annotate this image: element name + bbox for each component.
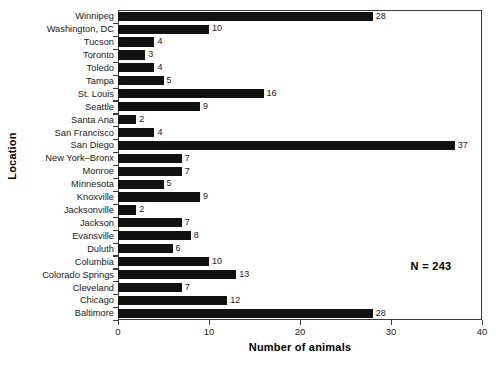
- bar-row: 37: [118, 139, 482, 152]
- bar-value-label: 28: [376, 10, 386, 22]
- x-tick-mark: [209, 320, 210, 325]
- category-label: Santa Ana: [2, 115, 114, 125]
- category-label: Seattle: [2, 102, 114, 112]
- bar: [118, 141, 455, 150]
- bar-row: 28: [118, 307, 482, 320]
- bar-row: 5: [118, 75, 482, 88]
- bar: [118, 309, 373, 318]
- bar: [118, 63, 154, 72]
- category-label: St. Louis: [2, 89, 114, 99]
- bar-value-label: 7: [185, 165, 190, 177]
- x-tick-mark: [300, 320, 301, 325]
- bar-value-label: 6: [176, 242, 181, 254]
- bar-row: 7: [118, 152, 482, 165]
- bar: [118, 128, 154, 137]
- category-label: Winnipeg: [2, 11, 114, 21]
- bar-value-label: 28: [376, 307, 386, 319]
- category-label: Jacksonville: [2, 205, 114, 215]
- bar-value-label: 4: [157, 35, 162, 47]
- x-axis-title: Number of animals: [118, 341, 482, 353]
- bar: [118, 89, 264, 98]
- bar-value-label: 2: [139, 113, 144, 125]
- bar-value-label: 5: [167, 177, 172, 189]
- bar-row: 5: [118, 178, 482, 191]
- bar-value-label: 37: [458, 139, 468, 151]
- bar-value-label: 4: [157, 61, 162, 73]
- bar: [118, 115, 136, 124]
- bar: [118, 244, 173, 253]
- bar-value-label: 7: [185, 216, 190, 228]
- bar: [118, 12, 373, 21]
- bar-row: 9: [118, 100, 482, 113]
- bar: [118, 231, 191, 240]
- bar-row: 16: [118, 88, 482, 101]
- category-label: Toronto: [2, 50, 114, 60]
- x-tick-mark: [391, 320, 392, 325]
- bar-row: 8: [118, 230, 482, 243]
- bar-value-label: 7: [185, 281, 190, 293]
- bar: [118, 218, 182, 227]
- bar-value-label: 16: [267, 87, 277, 99]
- category-label: Tampa: [2, 76, 114, 86]
- bar-row: 7: [118, 165, 482, 178]
- bar: [118, 50, 145, 59]
- category-label: Tucson: [2, 37, 114, 47]
- category-label: New York–Bronx: [2, 153, 114, 163]
- category-label: Minnesota: [2, 179, 114, 189]
- bar-value-label: 8: [194, 229, 199, 241]
- category-label: Toledo: [2, 63, 114, 73]
- x-tick-label: 10: [189, 326, 229, 337]
- bar: [118, 76, 164, 85]
- category-label: Duluth: [2, 244, 114, 254]
- bar-row: 7: [118, 217, 482, 230]
- bar-row: 4: [118, 62, 482, 75]
- x-tick-label: 30: [371, 326, 411, 337]
- bar-row: 10: [118, 23, 482, 36]
- bar-row: 28: [118, 10, 482, 23]
- bar: [118, 205, 136, 214]
- bar-row: 9: [118, 191, 482, 204]
- bar-row: 4: [118, 36, 482, 49]
- bar: [118, 296, 227, 305]
- category-label: Columbia: [2, 257, 114, 267]
- bar: [118, 154, 182, 163]
- bar-row: 4: [118, 126, 482, 139]
- bar: [118, 257, 209, 266]
- bar: [118, 180, 164, 189]
- bar-row: 3: [118, 49, 482, 62]
- bar-value-label: 10: [212, 22, 222, 34]
- bar: [118, 192, 200, 201]
- bar-row: 12: [118, 294, 482, 307]
- bar-value-label: 3: [148, 48, 153, 60]
- bar-value-label: 2: [139, 203, 144, 215]
- x-tick-label: 40: [462, 326, 496, 337]
- x-tick-mark: [482, 320, 483, 325]
- sample-size-annotation: N = 243: [396, 260, 466, 272]
- bar: [118, 283, 182, 292]
- category-label: Chicago: [2, 295, 114, 305]
- category-label: Monroe: [2, 166, 114, 176]
- category-label: San Diego: [2, 140, 114, 150]
- category-label: Cleveland: [2, 283, 114, 293]
- bar-row: 7: [118, 281, 482, 294]
- bar-value-label: 10: [212, 255, 222, 267]
- category-label: San Francisco: [2, 128, 114, 138]
- bar-value-label: 9: [203, 190, 208, 202]
- x-tick-label: 20: [280, 326, 320, 337]
- x-tick-label: 0: [98, 326, 138, 337]
- bar: [118, 25, 209, 34]
- category-label: Baltimore: [2, 308, 114, 318]
- bar-row: 2: [118, 113, 482, 126]
- bar-value-label: 7: [185, 152, 190, 164]
- bar: [118, 270, 236, 279]
- bar: [118, 167, 182, 176]
- bar: [118, 102, 200, 111]
- bar-value-label: 13: [239, 268, 249, 280]
- bar: [118, 37, 154, 46]
- category-label: Evansville: [2, 231, 114, 241]
- category-label: Knoxville: [2, 192, 114, 202]
- bars-layer: 28104345169243777592786101371228: [118, 10, 482, 320]
- category-label: Colorado Springs: [2, 270, 114, 280]
- category-label: Washington, DC: [2, 24, 114, 34]
- y-axis-category-labels: WinnipegWashington, DCTucsonTorontoToled…: [0, 10, 114, 320]
